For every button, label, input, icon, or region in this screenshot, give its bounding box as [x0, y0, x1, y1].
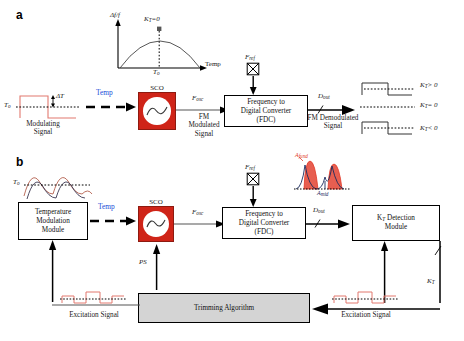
fref-sub-a: ref: [249, 55, 255, 61]
fosc-sub-a: osc: [196, 96, 203, 102]
modulating-signal-waveform: [14, 88, 92, 122]
spectrum-valley-sub: mid: [321, 191, 329, 197]
sine-wave-icon: [145, 217, 167, 230]
fdc-a-line3: (FDC): [241, 116, 292, 125]
modulating-caption-2: Signal: [6, 128, 80, 136]
crystal-oscillator-icon-a[interactable]: [246, 62, 260, 76]
tmm-line1: Temperature: [35, 208, 71, 217]
kt-detection-module[interactable]: KT Detection Module: [352, 205, 440, 241]
fm-demod-caption-2: Signal: [300, 122, 366, 130]
spectrum-valley-label: Amid: [317, 190, 328, 198]
spectrum-peak-sub: fund: [299, 153, 308, 159]
temp-label-a: Temp: [96, 89, 113, 98]
inset-xtick-sub: o: [157, 70, 160, 76]
fdc-a-line1: Frequency to: [241, 98, 292, 107]
sco-disc-b: [143, 211, 169, 237]
excitation-signal-left-caption: Excitation Signal: [48, 311, 140, 319]
sco-label-b: SCO: [136, 198, 176, 206]
ktdm-line1: KT Detection: [377, 214, 415, 223]
kt-eq-rest: = 0: [428, 101, 438, 109]
dout-sub-b: out: [318, 208, 325, 214]
dout-label-b: Dout: [313, 206, 325, 215]
sco-block-b[interactable]: [138, 206, 174, 242]
trimming-algorithm-label: Trimming Algorithm: [194, 304, 254, 313]
fdc-block-b[interactable]: Frequency to Digital Converter (FDC): [222, 207, 306, 239]
delta-t-label: ΔT: [56, 92, 64, 100]
fosc-arrow-b: [174, 218, 228, 230]
waveform-label-kt-lt-0: KT< 0: [420, 124, 438, 133]
temp-label-b: Temp: [98, 203, 115, 212]
temp-mod-baseline-sub: o: [17, 180, 20, 186]
fm-demodulated-caption: FM Demodulated Signal: [300, 114, 366, 131]
fdc-a-line2: Digital Converter: [241, 107, 292, 116]
ktdm-rest: Detection: [385, 214, 415, 222]
fosc-sub-b: osc: [196, 210, 203, 216]
excitation-signal-right-waveform: [330, 288, 402, 308]
fdc-b-line1: Frequency to: [239, 210, 290, 219]
temp-dashed-arrow-b: [88, 213, 140, 229]
inset-xtick-To: To: [153, 68, 160, 77]
inset-xlabel: Temp: [205, 60, 221, 68]
fdc-b-line2: Digital Converter: [239, 219, 290, 228]
fdc-b-line3: (FDC): [239, 228, 290, 237]
tmm-input-arrow: [48, 240, 58, 302]
crystal-oscillator-icon-b[interactable]: [246, 172, 260, 186]
inset-chart-df-vs-temp: Δf/f Temp KT=0 To: [104, 12, 222, 74]
modulating-baseline-sub: o: [8, 103, 11, 109]
modulating-signal-caption: Modulating Signal: [6, 120, 80, 137]
waveform-case-pulse-down: [358, 119, 418, 139]
modulating-caption-1: Modulating: [6, 120, 80, 128]
ps-label: PS: [139, 258, 147, 266]
fref-sub-b: ref: [249, 165, 255, 171]
dout-sub-a: out: [323, 94, 330, 100]
spectrum-peak-label: Afund: [295, 152, 308, 160]
temp-mod-baseline-label: To: [13, 178, 20, 187]
tmm-line2: Modulation: [35, 217, 71, 226]
waveform-case-pulse-up: [358, 78, 418, 98]
inset-peak-k-rest: =0: [152, 15, 160, 23]
fm-mod-caption-3: Signal: [176, 130, 232, 138]
sco-disc-a: [143, 97, 170, 124]
ktdm-line2: Module: [377, 223, 415, 232]
fdc-block-a[interactable]: Frequency to Digital Converter (FDC): [224, 95, 308, 127]
kt-lt-rest: < 0: [428, 124, 438, 132]
temp-dashed-arrow-a: [84, 99, 140, 115]
panel-letter-b: b: [16, 155, 23, 169]
dout-label-a: Dout: [318, 92, 330, 101]
panel-letter-a: a: [16, 8, 23, 22]
temperature-modulation-module[interactable]: Temperature Modulation Module: [18, 202, 88, 240]
modulating-baseline-label: To: [4, 101, 11, 110]
fm-demod-caption-1: FM Demodulated: [300, 114, 366, 122]
waveform-label-kt-gt-0: KT> 0: [420, 81, 438, 90]
fref-down-arrow-b: [249, 186, 258, 208]
temperature-modulation-waveform: [22, 172, 94, 202]
fref-label-b: Fref: [245, 163, 255, 172]
waveform-case-flat: [358, 101, 418, 113]
waveform-label-kt-eq-0: KT= 0: [420, 101, 438, 110]
excitation-signal-right-caption: Excitation Signal: [320, 311, 412, 319]
kt-feedback-sub: T: [432, 279, 435, 285]
sco-block-a[interactable]: [138, 92, 176, 130]
fosc-label-b: Fosc: [192, 208, 203, 217]
fref-label-a: Fref: [245, 53, 255, 62]
kt-gt-rest: > 0: [428, 81, 438, 89]
dout-arrow-b: [306, 218, 352, 230]
excitation-signal-left-waveform: [58, 288, 130, 308]
kt-feedback-path: [404, 241, 460, 309]
spectrum-inset: [292, 155, 354, 195]
sco-label-a: SCO: [136, 84, 178, 92]
figure-canvas: a Δf/f Temp KT=0 To: [0, 0, 464, 341]
inset-peak-annotation: KT=0: [144, 15, 160, 24]
kt-feedback-label: KT: [427, 277, 435, 286]
inset-ylabel: Δf/f: [110, 11, 120, 19]
fosc-label-a: Fosc: [192, 94, 203, 103]
trimming-algorithm-block[interactable]: Trimming Algorithm: [138, 293, 310, 323]
ps-arrow: [152, 244, 162, 290]
fref-down-arrow-a: [249, 76, 258, 96]
tmm-line3: Module: [35, 226, 71, 235]
sine-wave-icon: [145, 104, 169, 118]
